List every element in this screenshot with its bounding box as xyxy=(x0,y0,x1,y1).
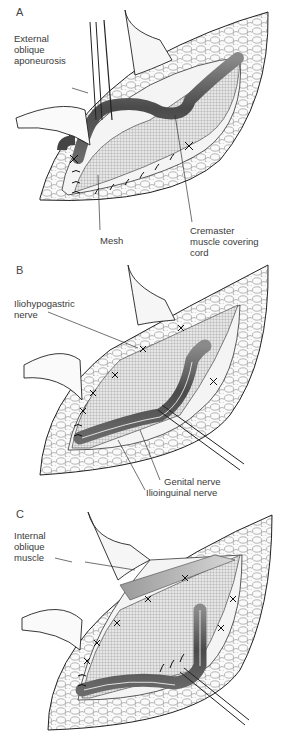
label-iliohypogastric-nerve: Iliohypogastric nerve xyxy=(14,298,75,320)
panel-b-letter: B xyxy=(16,264,23,276)
label-ilioinguinal-nerve: Ilioinguinal nerve xyxy=(146,487,217,498)
label-genital-nerve: Genital nerve xyxy=(164,476,221,487)
panel-c: C Internal oblique muscle xyxy=(0,500,283,742)
label-mesh: Mesh xyxy=(100,235,123,246)
panel-b: B Iliohypogastric nerve Genital nerve Il… xyxy=(0,250,283,500)
panel-c-letter: C xyxy=(16,508,24,520)
panel-b-illustration xyxy=(0,250,283,500)
label-internal-oblique-muscle: Internal oblique muscle xyxy=(14,530,46,563)
panel-a: A External oblique aponeurosis Mesh Crem… xyxy=(0,0,283,250)
label-external-oblique-aponeurosis: External oblique aponeurosis xyxy=(14,33,66,66)
panel-a-letter: A xyxy=(16,6,23,18)
